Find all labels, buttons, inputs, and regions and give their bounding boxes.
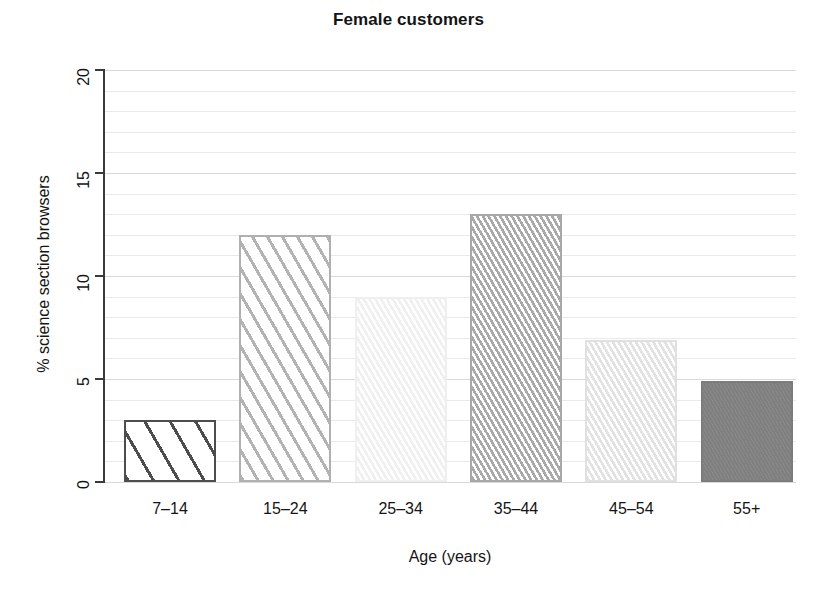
bar-7-14 [124,420,216,482]
gridline-minor [104,194,796,195]
gridline-major [104,482,796,483]
bar-25-34 [355,297,447,482]
y-tick-mark [95,378,104,380]
gridline-minor [104,111,796,112]
x-tick-label: 55+ [687,500,807,518]
x-axis-label: Age (years) [104,548,796,566]
gridline-minor [104,255,796,256]
y-tick-label: 20 [75,68,93,142]
bar-15-24 [239,235,331,482]
gridline-minor [104,132,796,133]
y-axis-label: % science section browsers [35,124,53,424]
gridline-minor [104,214,796,215]
x-tick-label: 25–34 [341,500,461,518]
y-tick-mark [95,275,104,277]
x-tick-label: 7–14 [110,500,230,518]
gridline-minor [104,152,796,153]
gridline-minor [104,297,796,298]
gridline-minor [104,400,796,401]
gridline-major [104,379,796,380]
x-tick-label: 15–24 [225,500,345,518]
gridline-major [104,70,796,71]
y-tick-label: 5 [75,377,93,451]
y-tick-label: 0 [75,480,93,554]
y-tick-mark [95,172,104,174]
gridline-minor [104,338,796,339]
y-tick-mark [95,481,104,483]
gridline-minor [104,317,796,318]
gridline-major [104,276,796,277]
bar-35-44 [470,214,562,482]
bar-45-54 [585,340,677,482]
gridline-minor [104,91,796,92]
y-tick-mark [95,69,104,71]
chart-figure: Female customers % science section brows… [0,0,817,591]
bar-55+ [701,381,793,482]
y-tick-label: 10 [75,274,93,348]
x-tick-label: 45–54 [571,500,691,518]
gridline-major [104,173,796,174]
chart-title: Female customers [0,10,817,30]
y-tick-label: 15 [75,171,93,245]
gridline-minor [104,358,796,359]
gridline-minor [104,235,796,236]
plot-area [104,70,796,482]
x-tick-label: 35–44 [456,500,576,518]
